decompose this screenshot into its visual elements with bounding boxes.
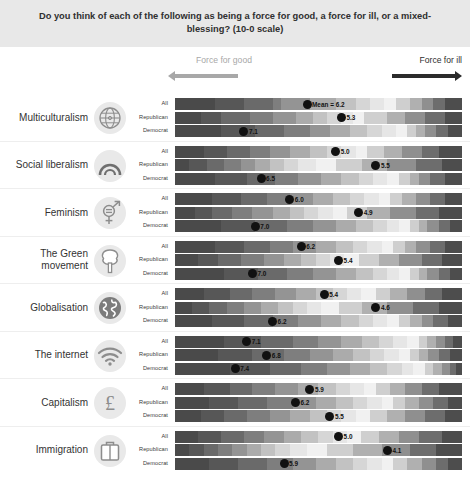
- stacked-bar: [175, 336, 462, 348]
- mean-marker-dot: [320, 290, 329, 299]
- mean-value-label: 7.4: [240, 365, 249, 372]
- mean-marker-dot: [371, 161, 380, 170]
- series-row: All5.4: [130, 288, 470, 300]
- bar-segment: [212, 193, 241, 205]
- bar-segment: [241, 159, 255, 171]
- bar-segment: [399, 268, 410, 280]
- bar-segment: [290, 410, 310, 422]
- bar-segment: [436, 336, 445, 348]
- stacked-bar: [175, 173, 462, 185]
- pound-icon: £: [94, 387, 126, 419]
- bar-segment: [198, 254, 218, 266]
- bar-segment: [336, 220, 356, 232]
- topic-label: Globalisation: [0, 284, 88, 332]
- bar-segment: [422, 98, 433, 110]
- bar-segment: [413, 302, 439, 314]
- bar-segment: [361, 288, 375, 300]
- bar-segment: [442, 159, 462, 171]
- bar-segment: [204, 444, 218, 456]
- series-row: Democrat6.2: [130, 315, 470, 327]
- bar-segment: [450, 220, 461, 232]
- bar-segment: [416, 193, 430, 205]
- bar-segment: [175, 254, 198, 266]
- topic-label: Multiculturalism: [0, 94, 88, 142]
- series-row: Republican4.6: [130, 302, 470, 314]
- bar-segment: [227, 146, 250, 158]
- series-row-label: Democrat: [130, 460, 168, 466]
- bar-segment: [433, 397, 447, 409]
- bar-segment: [399, 349, 410, 361]
- series-rows: All7.1Republican6.8Democrat7.4: [130, 336, 470, 377]
- bar-segment: [356, 98, 370, 110]
- bar-segment: [407, 458, 421, 470]
- bar-segment: [341, 336, 361, 348]
- series-row: Democrat6.5: [130, 173, 470, 185]
- bar-segment: [250, 112, 273, 124]
- bar-segment: [339, 302, 362, 314]
- series-row: Democrat7.0: [130, 220, 470, 232]
- bar-segment: [399, 220, 410, 232]
- bar-segment: [410, 349, 419, 361]
- bar-segment: [439, 302, 462, 314]
- bar-segment: [450, 268, 461, 280]
- bar-segment: [275, 444, 289, 456]
- bar-segment: [396, 125, 407, 137]
- bar-segment: [175, 458, 209, 470]
- bar-segment: [382, 125, 396, 137]
- bar-segment: [425, 288, 442, 300]
- bar-segment: [405, 383, 422, 395]
- bar-segment: [433, 98, 444, 110]
- page-title: Do you think of each of the following as…: [24, 10, 446, 36]
- bar-segment: [430, 173, 444, 185]
- bar-segment: [255, 125, 284, 137]
- bar-segment: [373, 173, 387, 185]
- bar-segment: [356, 146, 367, 158]
- topic-label: Capitalism: [0, 379, 88, 427]
- bar-segment: [175, 315, 212, 327]
- bar-segment: [393, 241, 404, 253]
- bar-segment: [370, 410, 387, 422]
- bar-segment: [448, 315, 462, 327]
- series-row-label: All: [130, 385, 168, 391]
- mean-marker-dot: [262, 351, 271, 360]
- bar-segment: [445, 410, 462, 422]
- bar-segment: [445, 112, 462, 124]
- bar-segment: [261, 336, 293, 348]
- bar-segment: [387, 410, 404, 422]
- bar-segment: [313, 268, 336, 280]
- bar-segment: [416, 125, 425, 137]
- bar-segment: [436, 125, 447, 137]
- bar-segment: [290, 146, 310, 158]
- bar-segment: [356, 410, 370, 422]
- bar-segment: [238, 458, 267, 470]
- series-row: All5.0: [130, 146, 470, 158]
- mean-value-label: 5.4: [344, 257, 353, 264]
- bar-segment: [218, 349, 252, 361]
- bar-segment: [353, 397, 367, 409]
- topic-blocks: MulticulturalismAllMean = 6.2Republican5…: [0, 94, 470, 474]
- bar-segment: [230, 288, 253, 300]
- bar-segment: [301, 431, 318, 443]
- bar-segment: [416, 241, 430, 253]
- bar-segment: [301, 254, 315, 266]
- bar-segment: [387, 315, 398, 327]
- bar-segment: [313, 112, 327, 124]
- bar-segment: [293, 336, 319, 348]
- bar-segment: [422, 383, 439, 395]
- stacked-bar: [175, 254, 462, 266]
- bar-segment: [425, 410, 445, 422]
- bar-segment: [275, 383, 298, 395]
- bar-segment: [278, 302, 292, 314]
- globe-world-icon: [94, 292, 126, 324]
- bar-segment: [275, 173, 298, 185]
- bar-segment: [273, 112, 296, 124]
- stacked-bar: [175, 125, 462, 137]
- series-rows: All5.0Republican4.1Democrat5.9: [130, 431, 470, 472]
- tree-icon: [94, 245, 126, 277]
- mean-value-label: 5.9: [289, 460, 298, 467]
- stacked-bar: [175, 458, 462, 470]
- bar-segment: [442, 254, 462, 266]
- bar-segment: [387, 112, 404, 124]
- series-rows: All6.0Republican4.9Democrat7.0: [130, 193, 470, 234]
- topic-label: The Green movement: [0, 237, 88, 285]
